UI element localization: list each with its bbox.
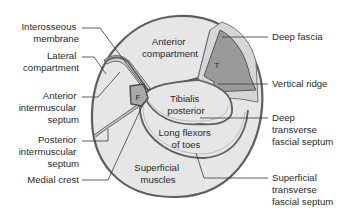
tibia-label: T (215, 61, 220, 70)
tibialis-posterior-label: Tibialis posterior (167, 93, 205, 116)
superficial-transverse-fascial-septum-label: Superficial transverse fascial septum (272, 172, 333, 207)
leg-cross-section-diagram: T F Anterior compartment Tibialis poster… (0, 0, 352, 220)
medial-crest-label: Medial crest (27, 174, 79, 185)
lateral-compartment-label: Lateral compartment (23, 50, 79, 73)
fibula-label: F (136, 93, 141, 102)
anterior-intermuscular-septum-label: Anterior intermuscular septum (19, 90, 79, 125)
vertical-ridge-label: Vertical ridge (272, 78, 327, 89)
interosseous-membrane-label: Interosseous membrane (21, 21, 79, 44)
superficial-muscles-label: Superficial muscles (134, 162, 181, 185)
deep-transverse-fascial-septum-label: Deep transverse fascial septum (272, 112, 333, 147)
posterior-intermuscular-septum-label: Posterior intermuscular septum (19, 134, 79, 169)
deep-fascia-label: Deep fascia (272, 31, 323, 42)
